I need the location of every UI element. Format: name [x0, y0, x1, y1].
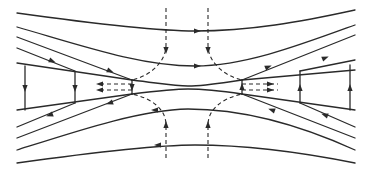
channel-upper-line: [132, 80, 242, 86]
lower-right-diag-a-line: [242, 94, 355, 138]
upper-right-boundary-line: [242, 70, 355, 80]
arrow-outflow-right-upper-icon: [267, 81, 274, 86]
upper-right-diag-b-line: [300, 60, 355, 71]
arrow-top-outer-icon: [194, 28, 201, 33]
inflow-top-right-dashed-line: [208, 8, 242, 80]
arrow-inflow-top-left-icon: [163, 47, 168, 54]
inflow-top-left-dashed-line: [132, 8, 166, 80]
arrow-outflow-right-lower-icon: [267, 87, 274, 92]
arrow-right-vertical-outer-icon: [347, 84, 352, 91]
streamline-diagram: [0, 0, 370, 171]
arrow-inflow-top-right-icon: [205, 47, 210, 54]
arrow-left-vertical-inner-icon: [72, 85, 77, 92]
arrow-outflow-left-upper-icon: [96, 81, 103, 86]
arrow-left-vertical-outer-icon: [22, 85, 27, 92]
channel-lower-line: [132, 89, 242, 94]
arrow-inflow-bottom-left-icon: [163, 121, 168, 128]
lower-right-boundary-line: [242, 94, 355, 110]
diagram-canvas: [0, 0, 370, 171]
arrow-right-vertical-inner-icon: [297, 84, 302, 91]
arrow-inflow-bottom-right-icon: [205, 121, 210, 128]
solid-field-lines: [17, 10, 355, 163]
inflow-bottom-right-dashed-line: [208, 94, 242, 158]
arrow-upper-right-b-icon: [321, 54, 329, 61]
arrow-top-second-icon: [194, 63, 201, 68]
bottom-second-line: [17, 109, 355, 150]
arrow-upper-left-a-icon: [106, 67, 114, 74]
arrow-outflow-left-lower-icon: [96, 87, 103, 92]
bottom-outer-line: [17, 145, 355, 163]
top-outer-line: [17, 10, 355, 31]
